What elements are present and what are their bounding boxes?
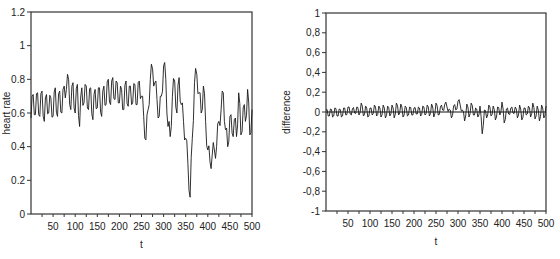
y-tick-label: -0,6 bbox=[303, 166, 321, 177]
heart-rate-chart: 00.20.40.60.811.250100150200250300350400… bbox=[0, 0, 280, 259]
x-tick-label: 50 bbox=[48, 221, 60, 232]
y-tick-label: 1 bbox=[19, 40, 25, 51]
x-axis-title: t bbox=[140, 239, 143, 250]
x-tick-label: 100 bbox=[67, 221, 84, 232]
x-axis-title: t bbox=[435, 236, 438, 247]
y-tick-label: 0,4 bbox=[306, 67, 320, 78]
y-tick-label: 0,6 bbox=[306, 47, 320, 58]
y-tick-label: 1.2 bbox=[11, 7, 25, 18]
x-tick-label: 250 bbox=[133, 221, 150, 232]
x-tick-label: 200 bbox=[406, 218, 423, 229]
x-tick-label: 150 bbox=[384, 218, 401, 229]
heart-rate-plot: 00.20.40.60.811.250100150200250300350400… bbox=[0, 0, 280, 259]
x-tick-label: 50 bbox=[342, 218, 354, 229]
x-tick-label: 250 bbox=[428, 218, 445, 229]
y-tick-label: 0.2 bbox=[11, 175, 25, 186]
x-tick-label: 100 bbox=[362, 218, 379, 229]
x-tick-label: 150 bbox=[89, 221, 106, 232]
y-tick-label: 0,8 bbox=[306, 27, 320, 38]
x-tick-label: 450 bbox=[516, 218, 533, 229]
y-axis-title: difference bbox=[281, 90, 292, 134]
y-tick-label: 1 bbox=[314, 8, 320, 19]
plot-frame bbox=[31, 12, 252, 214]
y-tick-label: -0,2 bbox=[303, 126, 321, 137]
difference-chart: -1-0,8-0,6-0,4-0,200,20,40,60,8150100150… bbox=[280, 0, 560, 259]
x-tick-label: 300 bbox=[450, 218, 467, 229]
x-tick-label: 500 bbox=[244, 221, 261, 232]
x-tick-label: 350 bbox=[472, 218, 489, 229]
y-tick-label: 0.8 bbox=[11, 74, 25, 85]
y-tick-label: 0.4 bbox=[11, 141, 25, 152]
x-tick-label: 200 bbox=[111, 221, 128, 232]
y-tick-label: -1 bbox=[311, 206, 320, 217]
y-tick-label: -0,8 bbox=[303, 186, 321, 197]
difference-plot: -1-0,8-0,6-0,4-0,200,20,40,60,8150100150… bbox=[280, 0, 560, 259]
x-tick-label: 400 bbox=[199, 221, 216, 232]
x-tick-label: 450 bbox=[222, 221, 239, 232]
y-tick-label: 0 bbox=[19, 209, 25, 220]
y-tick-label: 0 bbox=[314, 107, 320, 118]
x-tick-label: 350 bbox=[177, 221, 194, 232]
x-tick-label: 400 bbox=[494, 218, 511, 229]
y-tick-label: 0,2 bbox=[306, 87, 320, 98]
x-tick-label: 500 bbox=[538, 218, 555, 229]
x-tick-label: 300 bbox=[155, 221, 172, 232]
y-axis-title: heart rate bbox=[1, 91, 12, 134]
y-tick-label: -0,4 bbox=[303, 146, 321, 157]
series-line-heart-rate bbox=[31, 63, 252, 198]
y-tick-label: 0.6 bbox=[11, 108, 25, 119]
series-line-difference bbox=[326, 100, 546, 134]
